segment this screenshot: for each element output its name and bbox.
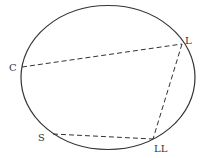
label-ll: LL	[154, 143, 168, 154]
ellipse-outline	[21, 6, 195, 150]
label-c: C	[9, 62, 17, 73]
dashed-line-s-ll	[53, 134, 153, 139]
dashed-chords	[22, 44, 182, 139]
dashed-line-c-l	[22, 44, 182, 67]
label-l: L	[185, 35, 192, 46]
ellipse-diagram: C L S LL	[0, 0, 205, 158]
point-labels: C L S LL	[9, 35, 192, 154]
dashed-line-l-ll	[153, 44, 182, 139]
label-s: S	[38, 132, 45, 143]
